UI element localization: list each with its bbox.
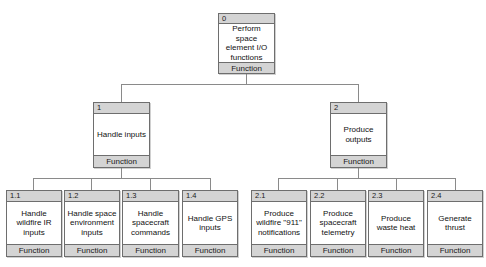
connector-node1-bus <box>33 178 210 179</box>
node-name-2: Produce outputs <box>331 114 386 155</box>
connector-to-node-2-2 <box>337 178 338 190</box>
node-type-1-1: Function <box>7 244 61 256</box>
connector-to-node-1-4 <box>210 178 211 190</box>
function-node-2-2[interactable]: 2.2 Produce spacecraft telemetry Functio… <box>310 190 366 257</box>
node-id-2-4: 2.4 <box>428 191 482 202</box>
node-type-2-1: Function <box>252 244 306 256</box>
connector-to-node-1-3 <box>150 178 151 190</box>
node-id-2-2: 2.2 <box>311 191 365 202</box>
node-type-1-4: Function <box>183 244 237 256</box>
connector-node2-down <box>358 168 359 178</box>
function-node-2-4[interactable]: 2.4 Generate thrust Function <box>427 190 483 257</box>
function-node-1-2[interactable]: 1.2 Handle space environment inputs Func… <box>64 190 120 257</box>
node-name-2-4: Generate thrust <box>428 202 482 244</box>
node-id-1-3: 1.3 <box>123 191 178 202</box>
node-id-0: 0 <box>219 14 274 24</box>
connector-to-node-1 <box>121 84 122 102</box>
node-type-1: Function <box>94 155 149 167</box>
node-id-1-1: 1.1 <box>7 191 61 202</box>
node-name-1-4: Handle GPS inputs <box>183 202 237 244</box>
connector-to-node-2-3 <box>396 178 397 190</box>
node-type-2-2: Function <box>311 244 365 256</box>
function-node-1-3[interactable]: 1.3 Handle spacecraft commands Function <box>122 190 179 257</box>
connector-to-node-2 <box>358 84 359 102</box>
node-id-1-4: 1.4 <box>183 191 237 202</box>
node-name-2-2: Produce spacecraft telemetry <box>311 202 365 244</box>
node-type-2: Function <box>331 155 386 167</box>
node-type-2-3: Function <box>369 244 423 256</box>
function-node-2-3[interactable]: 2.3 Produce waste heat Function <box>368 190 424 257</box>
node-id-1-2: 1.2 <box>65 191 119 202</box>
connector-root-down <box>246 74 247 84</box>
node-id-1: 1 <box>94 103 149 114</box>
function-node-2-1[interactable]: 2.1 Produce wildfire "911" notifications… <box>251 190 307 257</box>
function-node-0[interactable]: 0 Perform space element I/O functions Fu… <box>218 13 275 74</box>
node-name-2-3: Produce waste heat <box>369 202 423 244</box>
node-name-0: Perform space element I/O functions <box>219 24 274 61</box>
function-node-1[interactable]: 1 Handle inputs Function <box>93 102 150 168</box>
connector-node2-bus <box>278 178 455 179</box>
node-name-1-1: Handle wildfire IR inputs <box>7 202 61 244</box>
connector-level1-bus <box>121 84 359 85</box>
node-type-0: Function <box>219 62 274 73</box>
connector-to-node-2-1 <box>278 178 279 190</box>
node-name-2-1: Produce wildfire "911" notifications <box>252 202 306 244</box>
function-node-1-4[interactable]: 1.4 Handle GPS inputs Function <box>182 190 238 257</box>
function-hierarchy-diagram: 0 Perform space element I/O functions Fu… <box>0 0 486 267</box>
node-type-1-3: Function <box>123 244 178 256</box>
connector-to-node-2-4 <box>455 178 456 190</box>
node-name-1: Handle inputs <box>94 114 149 155</box>
node-id-2-3: 2.3 <box>369 191 423 202</box>
node-name-1-2: Handle space environment inputs <box>65 202 119 244</box>
node-type-2-4: Function <box>428 244 482 256</box>
connector-to-node-1-2 <box>91 178 92 190</box>
node-type-1-2: Function <box>65 244 119 256</box>
function-node-1-1[interactable]: 1.1 Handle wildfire IR inputs Function <box>6 190 62 257</box>
node-id-2: 2 <box>331 103 386 114</box>
node-id-2-1: 2.1 <box>252 191 306 202</box>
function-node-2[interactable]: 2 Produce outputs Function <box>330 102 387 168</box>
connector-node1-down <box>121 168 122 178</box>
node-name-1-3: Handle spacecraft commands <box>123 202 178 244</box>
connector-to-node-1-1 <box>33 178 34 190</box>
